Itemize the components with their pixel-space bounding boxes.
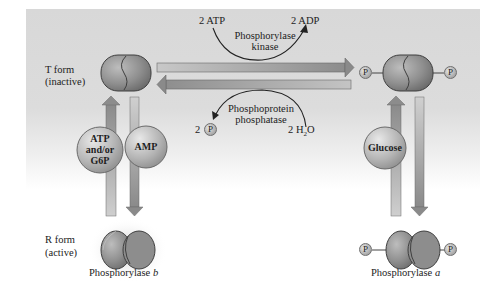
phosphorylase-a-label: Phosphorylase a [371, 267, 440, 279]
phosphate-r-right-icon: P [444, 243, 457, 256]
phosphorylase-b-letter: b [153, 267, 158, 278]
phosphatase-product-count: 2 [195, 124, 200, 136]
effector-atp-text: ATP [77, 133, 123, 144]
effector-g6p-text: G6P [77, 155, 123, 166]
phosphorylase-b-t-form-icon [101, 55, 151, 91]
phosphorylase-b-name: Phosphorylase [89, 267, 150, 278]
kinase-product-adp: 2 ADP [291, 15, 319, 27]
kinase-substrate-atp: 2 ATP [199, 15, 225, 27]
atp-g6p-effector-label: ATP and/or G6P [77, 133, 123, 166]
water-o: O [307, 124, 315, 135]
phosphate-product-icon: P [204, 123, 217, 136]
water-h: 2 H [288, 124, 303, 135]
r-form-state-label: (active) [45, 247, 77, 259]
phosphorylase-b-r-form-icon [101, 231, 155, 269]
phosphate-t-left-icon: P [359, 66, 372, 79]
amp-effector-label: AMP [125, 141, 167, 152]
phosphatase-substrate-water: 2 H2O [288, 124, 315, 140]
t-form-label: T form [45, 64, 74, 76]
phosphorylation-arrow [157, 58, 354, 77]
phosphorylase-a-name: Phosphorylase [371, 267, 432, 278]
phosphorylase-a-t-form-icon [372, 55, 444, 91]
phosphate-t-right-icon: P [444, 66, 457, 79]
a-down-arrow [411, 97, 428, 216]
kinase-enzyme-line2: kinase [225, 41, 305, 53]
dephosphorylation-arrow [157, 75, 351, 94]
effector-andor-text: and/or [77, 144, 123, 155]
r-form-label: R form [45, 234, 75, 246]
phosphorylase-a-letter: a [435, 267, 440, 278]
t-form-state-label: (inactive) [45, 76, 85, 88]
phosphorylase-b-label: Phosphorylase b [89, 267, 158, 279]
glucose-effector-label: Glucose [362, 142, 408, 153]
phosphate-r-left-icon: P [359, 243, 372, 256]
phosphorylase-a-r-form-icon [372, 231, 445, 269]
